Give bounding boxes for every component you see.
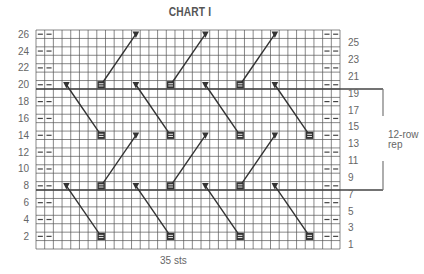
row-label-left: 24: [18, 46, 30, 57]
row-label-left: 26: [18, 29, 30, 40]
cable-line: [171, 135, 206, 186]
row-label-right: 17: [348, 105, 360, 116]
repeat-label: 12-row rep: [388, 130, 419, 150]
cable-line: [136, 186, 171, 237]
cable-line: [136, 85, 171, 136]
cable-line: [275, 85, 310, 136]
row-label-left: 10: [18, 163, 30, 174]
row-label-right: 23: [348, 54, 360, 65]
double-bar-square-icon: [236, 233, 243, 240]
row-label-left: 18: [18, 96, 30, 107]
cable-line: [240, 135, 275, 186]
row-label-right: 21: [348, 71, 360, 82]
row-label-right: 3: [348, 222, 354, 233]
double-bar-square-icon: [97, 132, 104, 139]
double-bar-square-icon: [236, 81, 243, 88]
cable-line: [101, 135, 136, 186]
cable-line: [66, 85, 101, 136]
cable-line: [101, 34, 136, 85]
knitting-chart-grid: 2624222018161412108642252321191715131197…: [0, 0, 424, 274]
double-bar-square-icon: [236, 182, 243, 189]
row-label-right: 11: [348, 155, 359, 166]
cable-line: [171, 34, 206, 85]
row-label-right: 25: [348, 37, 360, 48]
row-label-right: 5: [348, 206, 354, 217]
double-bar-square-icon: [167, 81, 174, 88]
row-label-left: 16: [18, 113, 30, 124]
double-bar-square-icon: [167, 132, 174, 139]
row-label-right: 13: [348, 138, 360, 149]
double-bar-square-icon: [167, 233, 174, 240]
row-label-left: 2: [23, 231, 29, 242]
row-label-left: 8: [23, 180, 29, 191]
cable-line: [205, 186, 240, 237]
row-label-left: 14: [18, 130, 30, 141]
row-label-right: 9: [348, 172, 354, 183]
double-bar-square-icon: [97, 233, 104, 240]
cable-line: [275, 186, 310, 237]
row-label-right: 19: [348, 88, 360, 99]
double-bar-square-icon: [167, 182, 174, 189]
row-label-left: 12: [18, 147, 30, 158]
row-label-left: 4: [23, 214, 29, 225]
cable-line: [66, 186, 101, 237]
cable-line: [240, 34, 275, 85]
row-label-left: 20: [18, 79, 30, 90]
cable-line: [205, 85, 240, 136]
row-label-left: 22: [18, 62, 30, 73]
double-bar-square-icon: [236, 132, 243, 139]
repeat-label-line2: rep: [388, 140, 419, 150]
double-bar-square-icon: [306, 233, 313, 240]
double-bar-square-icon: [97, 182, 104, 189]
stitch-count-label: 35 sts: [160, 255, 187, 266]
double-bar-square-icon: [97, 81, 104, 88]
row-label-right: 15: [348, 121, 360, 132]
double-bar-square-icon: [306, 132, 313, 139]
row-label-left: 6: [23, 197, 29, 208]
row-label-right: 1: [348, 239, 354, 250]
row-label-right: 7: [348, 189, 354, 200]
